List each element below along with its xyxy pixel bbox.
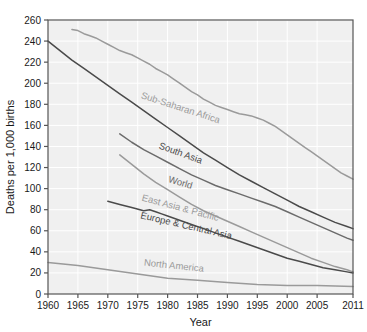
y-tick-label: 260 — [24, 15, 41, 26]
y-tick-label: 200 — [24, 78, 41, 89]
x-tick-label: 1990 — [216, 300, 239, 311]
y-tick-label: 0 — [35, 289, 41, 300]
x-tick-label: 2000 — [276, 300, 299, 311]
y-tick-label: 180 — [24, 99, 41, 110]
x-tick-label: 1980 — [156, 300, 179, 311]
x-tick-label: 1970 — [97, 300, 120, 311]
y-tick-label: 80 — [30, 204, 42, 215]
x-axis-title: Year — [189, 316, 212, 328]
infant-mortality-line-chart: 1960196519701975198019851990199520002005… — [0, 0, 367, 332]
x-tick-label: 1985 — [186, 300, 209, 311]
y-axis-title: Deaths per 1,000 births — [4, 99, 16, 214]
y-tick-label: 60 — [30, 225, 42, 236]
y-tick-label: 40 — [30, 246, 42, 257]
y-tick-label: 160 — [24, 120, 41, 131]
y-tick-label: 100 — [24, 183, 41, 194]
chart-canvas: 1960196519701975198019851990199520002005… — [0, 0, 367, 332]
y-tick-label: 220 — [24, 57, 41, 68]
x-tick-label: 2011 — [342, 300, 364, 311]
y-tick-label: 140 — [24, 141, 41, 152]
x-tick-label: 1965 — [67, 300, 90, 311]
x-tick-label: 2005 — [306, 300, 329, 311]
y-tick-label: 120 — [24, 162, 41, 173]
y-tick-label: 240 — [24, 36, 41, 47]
x-tick-label: 1995 — [246, 300, 269, 311]
x-tick-label: 1960 — [37, 300, 60, 311]
y-tick-label: 20 — [30, 267, 42, 278]
x-tick-label: 1975 — [127, 300, 150, 311]
